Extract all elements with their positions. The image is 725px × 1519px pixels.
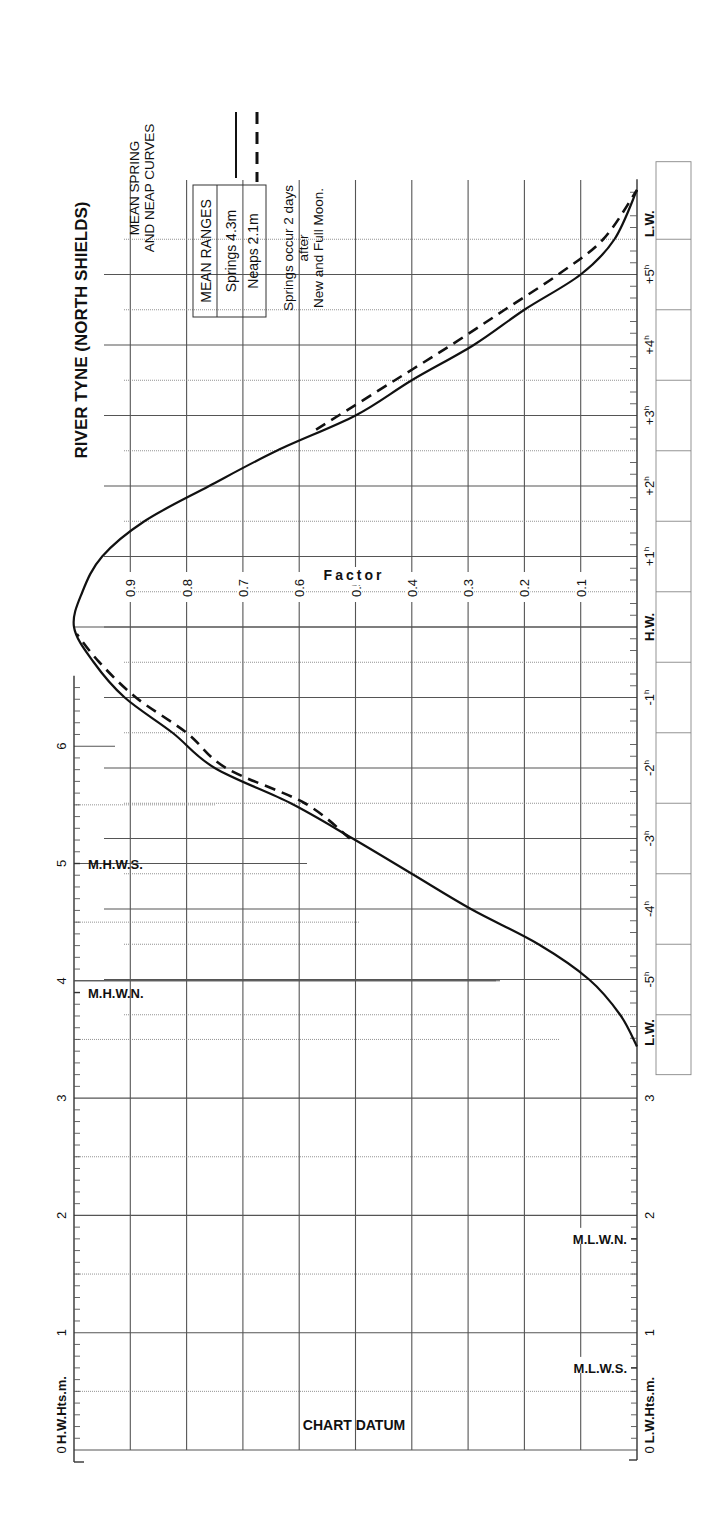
legend-neaps: Neaps 2.1m [245,213,261,288]
chart-title: RIVER TYNE (NORTH SHIELDS) [72,202,91,459]
lw-height-tick-label: 3 [642,1094,657,1101]
factor-tick-label: 0.2 [517,579,532,597]
time-tick-label: L.W. [642,1019,657,1046]
time-tick-label: -4h [642,901,657,917]
springs-note: Springs occur 2 days after New and Full … [281,185,326,311]
time-tick-label: -1h [642,689,657,705]
time-tick-label: +1h [642,547,657,566]
factor-tick-label: 0.4 [405,579,420,597]
lw-marker-label: M.L.W.N. [573,1232,627,1247]
chart-subtitle-line1: MEAN SPRING [127,141,142,236]
legend: MEAN RANGES Springs 4.3m Neaps 2.1m [193,112,266,317]
time-tick-label: +4h [642,335,657,354]
factor-tick-label: 0.9 [123,579,138,597]
tidal-curve-chart: 0.90.80.70.60.50.40.30.20.1FactorL.W.-5h… [0,0,725,1519]
time-tick-label: -2h [642,760,657,776]
lw-marker-label: M.L.W.S. [574,1361,627,1376]
hw-height-tick-label: 3 [54,1094,69,1101]
svg-text:after: after [296,234,311,262]
lw-height-tick-label: 0 [642,1446,657,1453]
hw-height-axis-label: H.W.Hts.m. [54,1376,69,1444]
chart-datum-label: CHART DATUM [303,1417,405,1433]
time-tick-label: +5h [642,265,657,284]
lw-height-axis-label: L.W.Hts.m. [642,1377,657,1443]
neaps-curve-flood [77,634,350,838]
factor-tick-label: 0.6 [292,579,307,597]
factor-tick-label: 0.8 [180,579,195,597]
lw-height-tick-label: 1 [642,1329,657,1336]
time-tick-label: -3h [642,830,657,846]
legend-springs: Springs 4.3m [223,210,239,292]
time-tick-label: L.W. [642,210,657,237]
hw-height-tick-label: 1 [54,1329,69,1336]
hw-height-tick-label: 0 [54,1446,69,1453]
hw-height-tick-label: 6 [54,743,69,750]
axes [74,162,691,1462]
chart-subtitle-line2: AND NEAP CURVES [142,124,157,253]
svg-text:New and Full Moon.: New and Full Moon. [311,188,326,308]
time-tick-label: -5h [642,971,657,987]
factor-tick-label: 0.1 [574,579,589,597]
svg-text:Springs occur 2 days: Springs occur 2 days [281,185,296,311]
hw-height-tick-label: 4 [54,977,69,984]
grid [74,180,637,1450]
factor-tick-label: 0.7 [236,579,251,597]
hw-marker-label: M.H.W.N. [88,986,144,1001]
factor-tick-label: 0.3 [461,579,476,597]
lw-height-tick-label: 2 [642,1212,657,1219]
time-tick-label: +3h [642,406,657,425]
factor-axis-label: Factor [324,567,385,583]
time-tick-label: H.W. [642,613,657,641]
time-tick-label: +2h [642,476,657,495]
hw-height-tick-label: 5 [54,860,69,867]
legend-header: MEAN RANGES [198,199,214,302]
hw-height-tick-label: 2 [54,1212,69,1219]
time-entry-box [656,162,691,1075]
